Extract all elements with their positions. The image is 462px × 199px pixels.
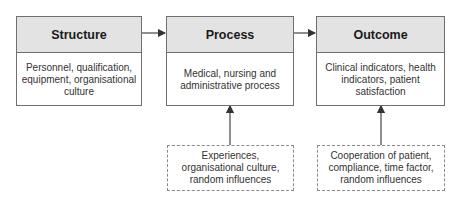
text-line: satisfaction [325, 86, 436, 98]
text-line: Clinical indicators, health [325, 62, 436, 74]
process-box: Process Medical, nursing and administrat… [166, 16, 294, 106]
text-line: Experiences, [182, 150, 280, 162]
text-line: Medical, nursing and [180, 68, 279, 80]
text-line: equipment, organisational [22, 74, 137, 86]
outcome-title: Outcome [317, 17, 444, 53]
text-line: random influences [182, 174, 280, 186]
text-line: administrative process [180, 80, 279, 92]
text-line: Cooperation of patient, [328, 150, 433, 162]
structure-box: Structure Personnel, qualification, equi… [16, 16, 142, 106]
text-line: culture [22, 86, 137, 98]
process-influences-box: Experiences, organisational culture, ran… [167, 145, 294, 191]
text-line: random influences [328, 174, 433, 186]
outcome-influences-box: Cooperation of patient, compliance, time… [317, 145, 445, 191]
process-description: Medical, nursing and administrative proc… [167, 53, 293, 106]
text-line: Personnel, qualification, [22, 62, 137, 74]
process-title: Process [167, 17, 293, 53]
structure-title: Structure [17, 17, 141, 53]
structure-description: Personnel, qualification, equipment, org… [17, 53, 141, 106]
text-line: compliance, time factor, [328, 162, 433, 174]
outcome-description: Clinical indicators, health indicators, … [317, 53, 444, 106]
outcome-box: Outcome Clinical indicators, health indi… [316, 16, 445, 106]
text-line: indicators, patient [325, 74, 436, 86]
text-line: organisational culture, [182, 162, 280, 174]
